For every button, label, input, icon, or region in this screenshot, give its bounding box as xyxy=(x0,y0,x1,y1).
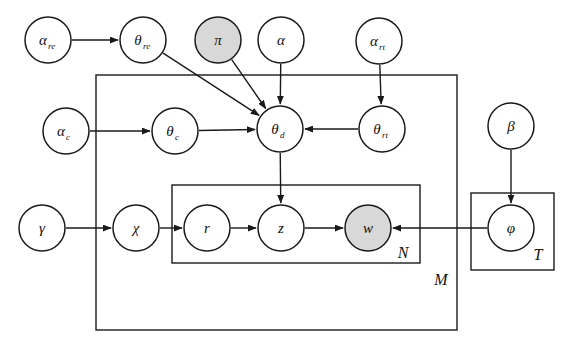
node-alpha: α xyxy=(258,17,304,63)
node-subscript-theta_c: c xyxy=(175,132,179,142)
edge-theta_d-to-z xyxy=(280,153,281,203)
node-circle-alpha_rt xyxy=(356,18,402,64)
node-label-chi: χ xyxy=(131,220,140,236)
node-circle-theta_rt xyxy=(359,106,405,152)
node-theta_d: θd xyxy=(257,106,303,152)
node-alpha_re: αre xyxy=(25,17,71,63)
node-chi: χ xyxy=(113,205,159,251)
node-circle-theta_c xyxy=(152,108,198,154)
node-label-theta_d: θ xyxy=(271,121,279,137)
node-circle-alpha_c xyxy=(43,108,89,154)
node-subscript-theta_re: re xyxy=(143,41,150,51)
node-circle-theta_re xyxy=(120,17,166,63)
node-label-z: z xyxy=(277,220,284,236)
node-subscript-alpha_rt: rt xyxy=(379,42,386,52)
node-label-theta_c: θ xyxy=(166,123,174,139)
node-label-theta_re: θ xyxy=(134,32,142,48)
node-label-r: r xyxy=(204,220,210,236)
node-subscript-theta_rt: rt xyxy=(382,130,389,140)
node-theta_re: θre xyxy=(120,17,166,63)
node-circle-theta_d xyxy=(257,106,303,152)
node-label-alpha_re: α xyxy=(39,32,48,48)
node-w: w xyxy=(345,205,391,251)
node-pi: π xyxy=(195,17,241,63)
edge-alpha_rt-to-theta_rt xyxy=(380,65,381,104)
node-label-alpha: α xyxy=(277,32,286,48)
node-label-theta_rt: θ xyxy=(373,121,381,137)
node-phi: φ xyxy=(488,205,534,251)
node-gamma: γ xyxy=(19,205,65,251)
node-subscript-alpha_re: re xyxy=(48,41,55,51)
node-r: r xyxy=(184,205,230,251)
node-theta_c: θc xyxy=(152,108,198,154)
plate-label-T: T xyxy=(534,246,544,263)
node-theta_rt: θrt xyxy=(359,106,405,152)
node-z: z xyxy=(258,205,304,251)
plate-notation-canvas: MNT αreθreπααrtαcθcθdθrtβγχrzwφ xyxy=(0,0,572,354)
node-label-alpha_c: α xyxy=(57,123,66,139)
node-label-phi: φ xyxy=(507,220,515,236)
node-alpha_c: αc xyxy=(43,108,89,154)
node-alpha_rt: αrt xyxy=(356,18,402,64)
node-label-w: w xyxy=(363,220,373,236)
node-label-alpha_rt: α xyxy=(370,33,379,49)
node-subscript-theta_d: d xyxy=(280,130,285,140)
graphical-model-diagram: MNT αreθreπααrtαcθcθdθrtβγχrzwφ xyxy=(0,0,572,354)
node-subscript-alpha_c: c xyxy=(66,132,70,142)
edge-theta_c-to-theta_d xyxy=(199,129,255,130)
node-circle-alpha_re xyxy=(25,17,71,63)
node-label-pi: π xyxy=(214,32,222,48)
node-label-beta: β xyxy=(506,118,515,134)
plate-label-N: N xyxy=(397,244,410,261)
plate-label-M: M xyxy=(433,271,449,288)
node-beta: β xyxy=(488,103,534,149)
